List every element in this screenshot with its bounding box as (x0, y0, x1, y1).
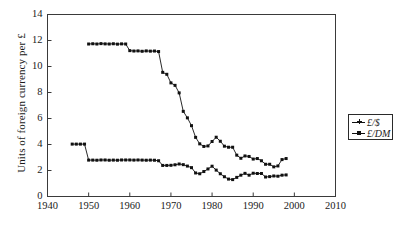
x-tick-label: 1940 (28, 200, 68, 211)
y-tick-label: 4 (21, 138, 43, 149)
chart-figure: Units of foreign currency per £ 19401950… (0, 0, 408, 229)
y-tick-label: 0 (21, 190, 43, 201)
y-tick-label: 2 (21, 164, 43, 175)
x-tick-label: 1990 (233, 200, 273, 211)
legend-label-gbp-usd: £/$ (366, 117, 380, 128)
data-series-gbp-usd (71, 143, 288, 181)
y-tick-label: 6 (21, 112, 43, 123)
y-tick-label: 10 (21, 60, 43, 71)
y-tick-label: 12 (21, 34, 43, 45)
chart-legend: £/$ £/DM (348, 114, 393, 140)
x-tick-label: 2000 (274, 200, 314, 211)
legend-marker-plus-icon (351, 117, 366, 127)
legend-label-gbp-dm: £/DM (366, 128, 390, 139)
plot-frame (48, 15, 336, 197)
y-tick-label: 14 (21, 8, 43, 19)
x-tick-label: 1960 (110, 200, 150, 211)
x-tick-label: 2010 (316, 200, 356, 211)
x-tick-label: 1950 (69, 200, 109, 211)
y-tick-label: 8 (21, 86, 43, 97)
data-series-group (71, 42, 288, 181)
y-axis-ticks (48, 15, 52, 197)
plot-area (0, 0, 408, 229)
x-tick-label: 1980 (192, 200, 232, 211)
x-tick-label: 1970 (151, 200, 191, 211)
x-axis-ticks (48, 193, 336, 197)
data-series-gbp-dm (87, 42, 287, 168)
legend-marker-square-icon (351, 128, 366, 138)
legend-item-gbp-dm: £/DM (351, 127, 390, 139)
